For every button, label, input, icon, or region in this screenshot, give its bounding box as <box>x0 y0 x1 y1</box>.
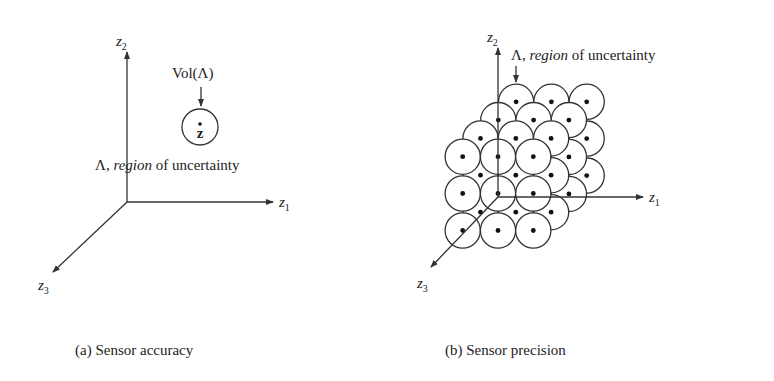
panel-b-sensor-precision: z2 z1 z3 Λ, region of uncertainty (b) Se… <box>416 29 660 359</box>
measurement-point-dot <box>549 210 554 215</box>
measurement-point-dot <box>513 136 518 141</box>
z2-axis-label: z2 <box>486 29 498 48</box>
figure-canvas: z2 z1 z3 Vol(Λ) z Λ, region of uncertain… <box>0 0 774 381</box>
measurement-point-dot <box>549 173 554 178</box>
measurement-point-dot <box>478 136 483 141</box>
measurement-point-dot <box>460 191 465 196</box>
uncertainty-lattice <box>445 84 604 248</box>
measurement-point-dot <box>478 173 483 178</box>
measurement-point-label: z <box>197 125 204 141</box>
z1-axis-label: z1 <box>278 194 290 213</box>
region-of-uncertainty-label-b: Λ, region of uncertainty <box>511 47 656 63</box>
measurement-point-dot <box>584 136 589 141</box>
measurement-point-dot <box>460 154 465 159</box>
measurement-point-dot <box>531 191 536 196</box>
measurement-point-dot <box>567 155 572 160</box>
measurement-point-dot <box>549 99 554 104</box>
caption-a: (a) Sensor accuracy <box>75 342 194 359</box>
measurement-point-dot <box>549 136 554 141</box>
z2-axis-label: z2 <box>115 33 127 52</box>
measurement-point-dot <box>531 228 536 233</box>
vol-lambda-label: Vol(Λ) <box>172 65 213 82</box>
measurement-point-dot <box>584 173 589 178</box>
z3-axis-label: z3 <box>37 277 49 296</box>
measurement-point-dot <box>513 210 518 215</box>
measurement-point-dot <box>531 154 536 159</box>
caption-b: (b) Sensor precision <box>445 342 566 359</box>
z1-axis-label: z1 <box>648 189 660 208</box>
measurement-point-dot <box>531 118 536 123</box>
measurement-point-dot <box>584 99 589 104</box>
measurement-point-dot <box>567 118 572 123</box>
measurement-point-dot <box>513 173 518 178</box>
region-of-uncertainty-label-a: Λ, region of uncertainty <box>95 157 240 173</box>
measurement-point-dot <box>567 192 572 197</box>
panel-a-sensor-accuracy: z2 z1 z3 Vol(Λ) z Λ, region of uncertain… <box>37 33 290 359</box>
measurement-point-dot <box>496 228 501 233</box>
measurement-point-dot <box>514 99 519 104</box>
z3-axis-label: z3 <box>416 275 428 294</box>
z3-axis <box>53 202 127 272</box>
